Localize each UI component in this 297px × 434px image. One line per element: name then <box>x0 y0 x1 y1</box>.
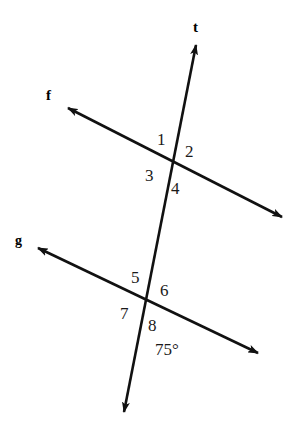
geometry-diagram: t f g 1 2 3 4 5 6 7 8 75° <box>0 0 297 434</box>
line-label-f: f <box>46 88 51 103</box>
angle-label-5: 5 <box>131 269 140 286</box>
angle-label-6: 6 <box>160 282 169 299</box>
angle-measure-75: 75° <box>155 341 179 358</box>
angle-label-2: 2 <box>185 143 194 160</box>
angle-label-8: 8 <box>148 317 157 334</box>
angle-label-3: 3 <box>145 167 154 184</box>
line-label-g: g <box>15 234 22 248</box>
line-f <box>68 108 282 217</box>
line-g <box>38 248 258 353</box>
angle-label-4: 4 <box>171 180 180 197</box>
geometry-canvas <box>0 0 297 434</box>
line-label-t: t <box>193 20 198 35</box>
angle-label-7: 7 <box>120 305 129 322</box>
angle-label-1: 1 <box>157 131 166 148</box>
